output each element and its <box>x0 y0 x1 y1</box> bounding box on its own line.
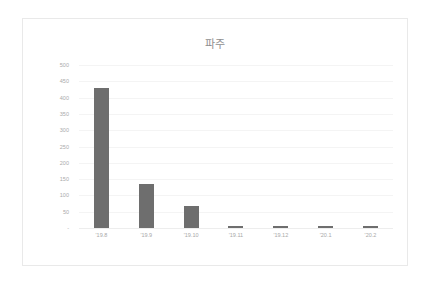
bar-slot <box>169 65 214 228</box>
x-axis-tick-label: '19.11 <box>214 232 259 238</box>
bar-slot <box>303 65 348 228</box>
bar[interactable] <box>184 206 199 228</box>
x-axis-tick-label: '19.8 <box>79 232 124 238</box>
bar[interactable] <box>273 226 288 228</box>
bar-slot <box>214 65 259 228</box>
bar[interactable] <box>139 184 154 228</box>
y-axis-tick-label: 100 <box>60 192 69 198</box>
bar-series <box>79 65 393 228</box>
y-axis-tick-label: 250 <box>60 144 69 150</box>
y-axis-tick-label: 300 <box>60 127 69 133</box>
x-axis-tick-label: '20.2 <box>348 232 393 238</box>
gridline <box>79 228 393 229</box>
bar-slot <box>79 65 124 228</box>
bar[interactable] <box>228 226 243 228</box>
y-axis-tick-label: 500 <box>60 62 69 68</box>
chart-title: 파주 <box>23 35 407 51</box>
screenshot-root: 파주 50045040035030025020015010050- '19.8'… <box>0 0 430 284</box>
x-axis-tick-label: '19.9 <box>124 232 169 238</box>
bar[interactable] <box>94 88 109 228</box>
y-axis-tick-label: 400 <box>60 95 69 101</box>
y-axis-tick-label: - <box>67 225 69 231</box>
chart-container: 파주 50045040035030025020015010050- '19.8'… <box>22 18 408 266</box>
bar[interactable] <box>363 226 378 228</box>
bar-slot <box>258 65 303 228</box>
y-axis-tick-label: 50 <box>63 209 69 215</box>
y-axis-tick-label: 200 <box>60 160 69 166</box>
bar-slot <box>124 65 169 228</box>
y-axis-tick-label: 150 <box>60 176 69 182</box>
x-axis-tick-label: '19.10 <box>169 232 214 238</box>
bar[interactable] <box>318 226 333 228</box>
y-axis: 50045040035030025020015010050- <box>23 65 75 228</box>
x-axis-tick-label: '19.12 <box>258 232 303 238</box>
bar-slot <box>348 65 393 228</box>
x-axis-tick-label: '20.1 <box>303 232 348 238</box>
y-axis-tick-label: 450 <box>60 78 69 84</box>
x-axis: '19.8'19.9'19.10'19.11'19.12'20.1'20.2 <box>79 232 393 238</box>
y-axis-tick-label: 350 <box>60 111 69 117</box>
